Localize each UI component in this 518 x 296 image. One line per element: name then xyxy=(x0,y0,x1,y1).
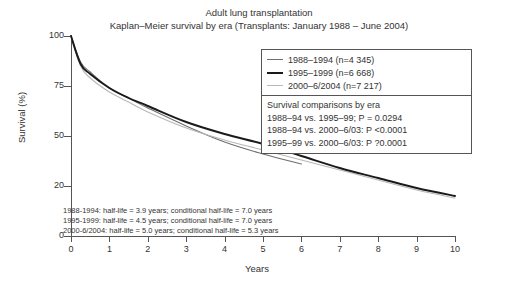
legend-swatch-2000-2004 xyxy=(267,85,283,86)
legend-swatch-1988-1994 xyxy=(267,59,283,60)
half-life-line-1995-1999: 1995-1999: half-life = 4.5 years; condit… xyxy=(63,216,279,226)
comparisons-heading: Survival comparisons by era xyxy=(267,99,466,112)
legend-label-2000-2004: 2000–6/2004 (n=7 217) xyxy=(288,81,382,91)
legend: 1988–1994 (n=4 345) 1995–1999 (n=6 668) … xyxy=(261,49,472,154)
legend-item-1995-1999: 1995–1999 (n=6 668) xyxy=(267,66,466,79)
legend-label-1995-1999: 1995–1999 (n=6 668) xyxy=(288,68,374,78)
comparison-line-2: 1988–94 vs. 2000–6/03: P <0.0001 xyxy=(267,124,466,137)
legend-item-2000-2004: 2000–6/2004 (n=7 217) xyxy=(267,79,466,92)
half-life-annotations: 1988-1994: half-life = 3.9 years; condit… xyxy=(63,206,279,236)
comparison-line-3: 1995–99 vs. 2000–6/03: P ?0.0001 xyxy=(267,137,466,150)
legend-label-1988-1994: 1988–1994 (n=4 345) xyxy=(288,55,374,65)
legend-item-1988-1994: 1988–1994 (n=4 345) xyxy=(267,53,466,66)
half-life-line-1988-1994: 1988-1994: half-life = 3.9 years; condit… xyxy=(63,206,279,216)
legend-swatch-1995-1999 xyxy=(267,72,283,74)
legend-series-list: 1988–1994 (n=4 345) 1995–1999 (n=6 668) … xyxy=(262,50,471,96)
legend-comparisons: Survival comparisons by era 1988–94 vs. … xyxy=(262,96,471,153)
comparison-line-1: 1988–94 vs. 1995–99; P = 0.0294 xyxy=(267,112,466,125)
half-life-line-2000-2004: 2000-6/2004: half-life = 5.0 years; cond… xyxy=(63,226,279,236)
kaplan-meier-survival-chart: Adult lung transplantation Kaplan–Meier … xyxy=(0,0,518,296)
